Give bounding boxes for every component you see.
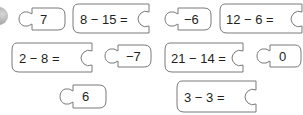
answer-piece-0[interactable]: 0 bbox=[256, 44, 303, 68]
answer-piece-minus-6[interactable]: −6 bbox=[164, 7, 214, 31]
question-piece-21-minus-14[interactable]: 21 − 14 = bbox=[164, 42, 244, 73]
question-label: 21 − 14 = bbox=[171, 52, 226, 65]
decorative-circle-icon bbox=[0, 7, 8, 25]
question-piece-3-minus-3[interactable]: 3 − 3 = bbox=[176, 80, 257, 113]
question-label: 8 − 15 = bbox=[80, 13, 128, 26]
question-label: 12 − 6 = bbox=[226, 13, 274, 26]
answer-piece-6[interactable]: 6 bbox=[59, 84, 109, 109]
answer-label: 6 bbox=[82, 90, 89, 103]
answer-label: −6 bbox=[184, 13, 199, 26]
answer-label: 7 bbox=[40, 13, 47, 26]
answer-piece-minus-7[interactable]: −7 bbox=[104, 44, 154, 68]
answer-label: −7 bbox=[126, 50, 141, 63]
question-piece-2-minus-8[interactable]: 2 − 8 = bbox=[11, 42, 93, 73]
answer-piece-7[interactable]: 7 bbox=[18, 7, 68, 31]
question-piece-8-minus-15[interactable]: 8 − 15 = bbox=[72, 3, 150, 34]
question-label: 3 − 3 = bbox=[184, 91, 224, 104]
question-piece-12-minus-6[interactable]: 12 − 6 = bbox=[219, 3, 303, 34]
answer-label: 0 bbox=[279, 50, 286, 63]
question-label: 2 − 8 = bbox=[19, 52, 59, 65]
